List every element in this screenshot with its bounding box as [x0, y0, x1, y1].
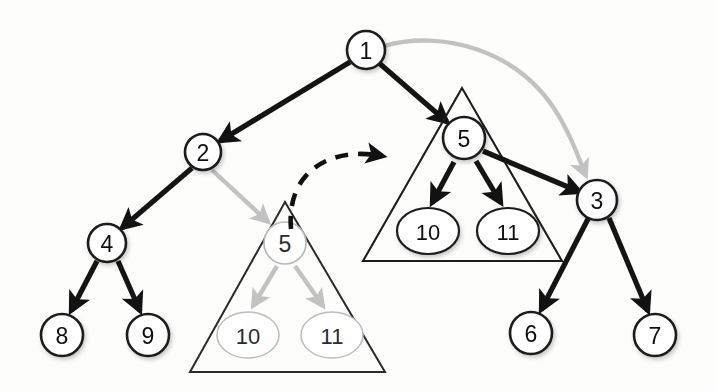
node-9: 9	[127, 314, 169, 356]
node-8: 8	[41, 314, 83, 356]
node-1-label: 1	[360, 38, 373, 64]
node-4: 4	[88, 224, 126, 262]
edge-subtree-relocation-dashed	[291, 154, 382, 229]
node-5-new: 5	[443, 117, 485, 159]
edge-5old-to-10old-faded	[253, 266, 277, 306]
node-10-old: 10	[217, 312, 279, 358]
diagram-canvas: 5 10 11 1 2 4	[0, 0, 716, 391]
edge-4-to-9	[118, 261, 140, 311]
edge-1-to-5-new	[379, 63, 447, 122]
node-10-old-label: 10	[236, 324, 260, 349]
edge-5old-to-11old-faded	[295, 266, 323, 306]
edge-2-to-4	[122, 168, 192, 228]
node-5-old: 5	[264, 222, 306, 264]
node-10-new-label: 10	[416, 220, 440, 245]
node-5-new-label: 5	[458, 126, 471, 152]
node-6: 6	[510, 312, 552, 354]
node-9-label: 9	[142, 323, 155, 349]
edge-1-to-3-faded	[384, 41, 586, 176]
edge-2-to-5-old-faded	[212, 170, 268, 222]
node-11-new-label: 11	[497, 220, 520, 245]
edge-5new-to-10new	[432, 162, 454, 203]
edge-5new-to-11new	[476, 161, 501, 203]
node-7-label: 7	[649, 323, 662, 349]
node-3: 3	[577, 180, 617, 220]
node-2-label: 2	[197, 140, 210, 166]
edge-4-to-8	[71, 261, 97, 311]
node-11-old-label: 11	[321, 324, 344, 349]
node-3-label: 3	[591, 188, 604, 214]
node-7: 7	[634, 314, 676, 356]
edge-3-to-6	[541, 219, 588, 310]
node-5-old-label: 5	[279, 231, 292, 257]
tree-diagram: 5 10 11 1 2 4	[0, 0, 716, 391]
node-2: 2	[185, 134, 221, 170]
node-6-label: 6	[525, 321, 538, 347]
node-11-new: 11	[477, 208, 539, 254]
node-8-label: 8	[56, 323, 69, 349]
node-1: 1	[347, 31, 385, 69]
node-10-new: 10	[397, 208, 459, 254]
edge-1-to-2	[220, 62, 350, 141]
edge-5new-to-3	[483, 151, 580, 192]
node-11-old: 11	[301, 312, 363, 358]
node-4-label: 4	[101, 231, 114, 257]
edge-3-to-7	[609, 218, 648, 311]
